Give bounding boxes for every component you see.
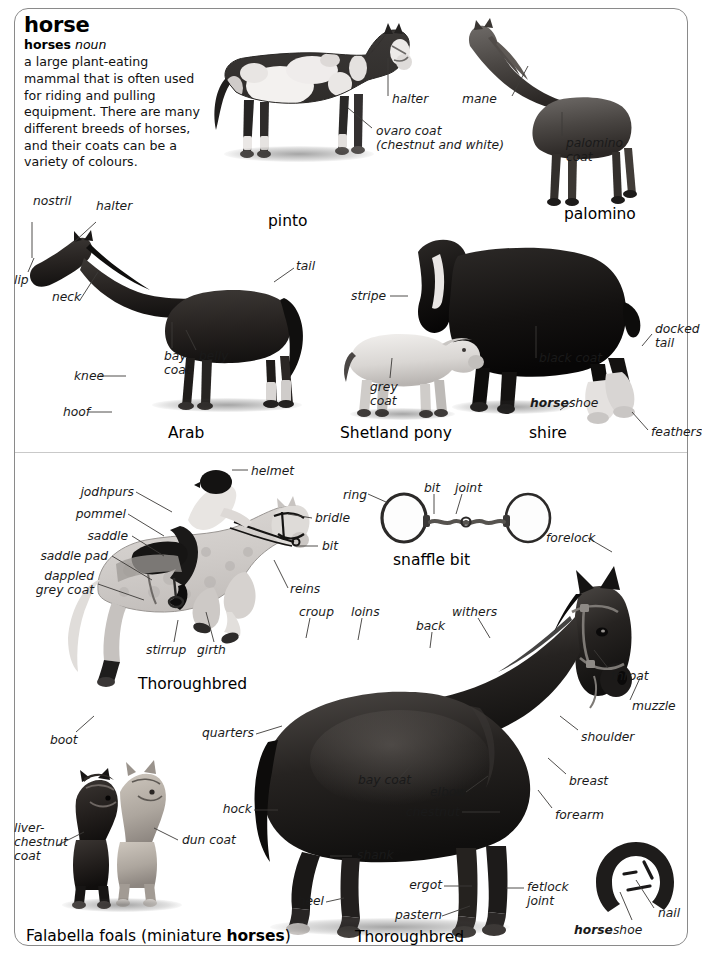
dictionary-page: horse horses noun a large plant-eating m… — [0, 0, 702, 964]
label-ovaro-coat: ovaro coat (chestnut and white) — [376, 124, 504, 152]
label-forelock: forelock — [546, 531, 595, 545]
caption-snaffle-bit: snaffle bit — [393, 551, 470, 569]
label-grey-coat: grey coat — [370, 380, 398, 408]
arab-photo — [22, 222, 312, 412]
label-forearm: forearm — [555, 808, 604, 822]
label-fetlock-joint: fetlock joint — [527, 880, 569, 908]
inflection-line: horses noun — [24, 37, 204, 52]
label-pommel: pommel — [72, 507, 126, 521]
label-ergot: ergot — [404, 878, 442, 892]
label-saddle: saddle — [80, 529, 128, 543]
label-belly: belly — [199, 349, 228, 363]
part-of-speech: noun — [75, 37, 106, 52]
label-shank: shank — [357, 848, 394, 862]
caption-pinto: pinto — [268, 212, 308, 230]
label-shoulder: shoulder — [581, 730, 634, 744]
label-reins: reins — [290, 582, 320, 596]
label-girth: girth — [197, 643, 226, 657]
caption-shire: shire — [529, 424, 567, 442]
label-lip: lip — [14, 273, 29, 287]
caption-falabella: Falabella foals (miniature horses) — [26, 927, 291, 945]
label-halter-pinto: halter — [392, 92, 428, 106]
label-breast: breast — [569, 774, 608, 788]
label-bridle: bridle — [315, 511, 350, 525]
label-tail: tail — [296, 259, 315, 273]
label-stripe: stripe — [351, 289, 386, 303]
label-chestnut: chestnut — [406, 805, 460, 819]
label-helmet: helmet — [251, 464, 294, 478]
label-bay-coat-tb: bay coat — [358, 773, 411, 787]
label-liver-chestnut-coat: liver- chestnut coat — [14, 821, 68, 863]
label-quarters: quarters — [198, 726, 254, 740]
label-dappled-grey-coat: dappled grey coat — [24, 569, 94, 597]
label-boot: boot — [50, 733, 78, 747]
label-jodhpurs: jodhpurs — [80, 485, 134, 499]
label-mane: mane — [462, 92, 497, 106]
label-horseshoe-detail: horseshoe — [574, 923, 642, 937]
definition-text: a large plant-eating mammal that is ofte… — [24, 54, 204, 171]
label-withers: withers — [452, 605, 497, 619]
caption-shetland-pony: Shetland pony — [340, 424, 452, 442]
label-ring: ring — [343, 488, 367, 502]
label-black-coat: black coat — [539, 351, 602, 365]
label-joint: joint — [455, 481, 482, 495]
label-dun-coat: dun coat — [182, 833, 236, 847]
label-hoof: hoof — [63, 405, 90, 419]
label-hock: hock — [214, 802, 252, 816]
caption-thoroughbred-main: Thoroughbred — [355, 928, 464, 946]
inflection-form: horses — [24, 37, 71, 52]
horseshoe-rest-part: shoe — [569, 396, 598, 410]
horseshoe-bold-part: horse — [530, 396, 569, 410]
shetland-pony-photo — [342, 318, 487, 423]
caption-thoroughbred-jumper: Thoroughbred — [138, 675, 247, 693]
label-feathers: feathers — [651, 425, 702, 439]
label-nostril: nostril — [33, 194, 71, 208]
falabella-horses-bold: horses — [226, 927, 284, 945]
label-neck: neck — [52, 290, 81, 304]
label-throat: throat — [611, 669, 649, 683]
page-title: horse — [24, 14, 204, 36]
section-divider — [15, 452, 687, 453]
label-stirrup: stirrup — [146, 643, 186, 657]
label-docked-tail: docked tail — [655, 322, 700, 350]
horseshoe-detail-bold: horse — [574, 923, 613, 937]
entry-headword-block: horse horses noun a large plant-eating m… — [24, 14, 204, 171]
label-muzzle: muzzle — [632, 699, 676, 713]
label-bay-coat-arab: bay coat — [164, 349, 191, 377]
label-back: back — [416, 619, 445, 633]
label-elbow: elbow — [430, 785, 466, 799]
snaffle-bit-diagram — [376, 486, 556, 550]
label-pastern: pastern — [388, 908, 442, 922]
falabella-foals-photo — [58, 752, 198, 912]
horseshoe-detail-rest: shoe — [613, 923, 642, 937]
label-saddle-pad: saddle pad — [30, 549, 108, 563]
label-palomino-coat: palomino coat — [566, 136, 623, 164]
label-bit-snaffle: bit — [424, 481, 440, 495]
label-heel: heel — [288, 894, 324, 908]
label-bit-bridle: bit — [322, 539, 338, 553]
label-knee: knee — [74, 369, 104, 383]
label-croup: croup — [299, 605, 334, 619]
caption-palomino: palomino — [564, 205, 636, 223]
label-halter-arab: halter — [96, 199, 132, 213]
label-horseshoe-shire: horseshoe — [530, 396, 598, 410]
palomino-photo — [440, 16, 640, 206]
label-nail: nail — [658, 906, 680, 920]
label-loins: loins — [351, 605, 380, 619]
pinto-photo — [208, 18, 438, 208]
caption-arab: Arab — [168, 424, 204, 442]
